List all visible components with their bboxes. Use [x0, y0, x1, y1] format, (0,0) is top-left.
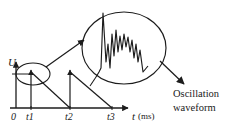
x-tick-label-t2: t2 [65, 112, 73, 122]
sawtooth-decay-t2-t3 [70, 72, 112, 108]
x-axis-label: t [132, 111, 135, 122]
sawtooth-decay-t1-t2 [31, 72, 70, 108]
callout-label-line1: Oscillation [173, 88, 219, 100]
magnifier-ellipse [82, 12, 166, 84]
zoom-connector-arrow [46, 40, 84, 67]
figure-container: U 0 t1 t2 t3 t (ms) Oscillation waveform [0, 0, 235, 133]
oscillation-waveform-trace [96, 13, 148, 77]
origin-label: 0 [11, 112, 16, 122]
y-axis-label: U [8, 57, 16, 68]
waveform-tail-left [90, 77, 96, 86]
callout-label-line2: waveform [173, 102, 216, 114]
x-tick-label-t3: t3 [107, 112, 115, 122]
x-axis-unit-label: (ms) [138, 112, 155, 121]
x-tick-label-t1: t1 [26, 112, 34, 122]
callout-arrow [160, 61, 184, 84]
